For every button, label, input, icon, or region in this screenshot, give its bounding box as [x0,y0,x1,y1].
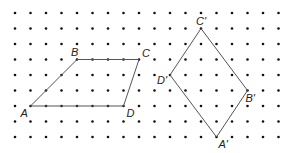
grid-dot [76,27,79,30]
grid-dot [153,27,156,30]
grid-dot [231,74,234,77]
grid-dot [60,43,63,46]
grid-dot [262,74,265,77]
grid-dot [138,89,141,92]
grid-dot [14,120,17,123]
grid-dot [76,89,79,92]
grid-dot [138,43,141,46]
grid-dot [246,120,249,123]
grid-dot [246,12,249,15]
grid-dot [153,120,156,123]
grid-dot [246,43,249,46]
grid-dot [60,136,63,139]
grid-dot [200,58,203,61]
grid-dot [60,27,63,30]
grid-dot [215,74,218,77]
grid-dot [246,58,249,61]
grid-dot [184,136,187,139]
grid-dot [200,120,203,123]
grid-dot [153,12,156,15]
vertex-label: A' [218,138,229,150]
grid-dot [91,27,94,30]
grid-dot [138,74,141,77]
grid-dot [262,105,265,108]
grid-dot [277,27,280,30]
grid-dot [29,120,32,123]
grid-dot [122,43,125,46]
grid-dot [107,136,110,139]
grid-dot [29,27,32,30]
grid-dot [184,89,187,92]
dot-grid [14,12,280,139]
grid-dot [138,27,141,30]
grid-dot [215,89,218,92]
grid-dot [246,105,249,108]
grid-dot [215,12,218,15]
grid-dot [91,120,94,123]
grid-dot [153,105,156,108]
grid-dot [169,120,172,123]
grid-dot [215,120,218,123]
grid-dot [138,12,141,15]
grid-dot [262,89,265,92]
grid-dot [262,12,265,15]
grid-dot [231,136,234,139]
grid-dot [122,120,125,123]
grid-dot [153,43,156,46]
grid-dot [76,136,79,139]
grid-dot [231,105,234,108]
grid-dot [91,136,94,139]
grid-dot [169,136,172,139]
grid-dot [231,58,234,61]
grid-dot [184,27,187,30]
grid-dot [45,27,48,30]
grid-dot [277,74,280,77]
grid-dot [184,58,187,61]
grid-dot [246,74,249,77]
grid-dot [184,43,187,46]
grid-dot [277,136,280,139]
grid-dot [215,105,218,108]
grid-dot [91,89,94,92]
grid-dot [138,136,141,139]
grid-dot [200,136,203,139]
grid-dot [200,74,203,77]
grid-dot [153,136,156,139]
grid-dot [262,58,265,61]
vertex-label: C [142,47,150,59]
grid-dot [14,89,17,92]
grid-dot [246,27,249,30]
grid-dot [262,27,265,30]
vertex-label: D' [157,74,168,86]
grid-dot [45,120,48,123]
grid-dot [153,58,156,61]
grid-dot [277,120,280,123]
vertex-label: B [71,46,78,58]
grid-dot [60,120,63,123]
grid-dot [122,27,125,30]
grid-dot [277,43,280,46]
grid-dot [14,74,17,77]
grid-dot [200,43,203,46]
grid-dot [29,74,32,77]
grid-dot [122,74,125,77]
grid-dot [277,105,280,108]
grid-dot [169,89,172,92]
grid-dot [169,105,172,108]
grid-dot [107,74,110,77]
grid-dot [60,58,63,61]
grid-dot [29,136,32,139]
grid-dot [107,89,110,92]
grid-dot [231,120,234,123]
grid-dot [277,58,280,61]
grid-dot [246,136,249,139]
grid-dot [29,89,32,92]
grid-dot [29,58,32,61]
dot-grid-diagram: ABCDA'B'C'D' [0,0,296,153]
grid-dot [262,136,265,139]
vertex-label: C' [196,15,207,27]
grid-dot [14,105,17,108]
grid-dot [231,27,234,30]
grid-dot [107,43,110,46]
grid-dot [277,89,280,92]
